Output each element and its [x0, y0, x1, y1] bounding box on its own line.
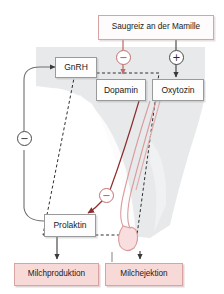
node-prolaktin[interactable]: Prolaktin — [44, 214, 96, 237]
sign-stimulate-oxytozin-icon: + — [169, 50, 184, 65]
sign-inhibit-prolaktin-icon: − — [99, 188, 114, 203]
node-prolaktin-label: Prolaktin — [53, 221, 86, 230]
sign-glyph: − — [119, 53, 127, 63]
sign-glyph: − — [20, 134, 28, 144]
node-saugreiz[interactable]: Saugreiz an der Mamille — [98, 15, 214, 40]
sign-glyph: + — [172, 53, 180, 63]
node-milchejektion-label: Milchejektion — [120, 270, 167, 279]
node-oxytozin-label: Oxytozin — [161, 86, 194, 95]
sign-inhibit-gnrh-icon: − — [17, 131, 32, 146]
sign-glyph: − — [102, 191, 110, 201]
diagram-connectors — [0, 0, 224, 294]
node-milchejektion[interactable]: Milchejektion — [105, 263, 183, 286]
node-saugreiz-label: Saugreiz an der Mamille — [112, 23, 200, 32]
node-milchproduktion-label: Milchproduktion — [28, 270, 85, 279]
node-dopamin[interactable]: Dopamin — [96, 79, 146, 101]
node-oxytozin[interactable]: Oxytozin — [152, 79, 204, 101]
node-gnrh-label: GnRH — [64, 63, 88, 72]
node-milchproduktion[interactable]: Milchproduktion — [14, 263, 99, 286]
node-dopamin-label: Dopamin — [104, 86, 138, 95]
node-gnrh[interactable]: GnRH — [55, 57, 97, 78]
diagram-canvas: Saugreiz an der Mamille GnRH Dopamin Oxy… — [0, 0, 224, 294]
sign-inhibit-dopamin-icon: − — [116, 50, 131, 65]
